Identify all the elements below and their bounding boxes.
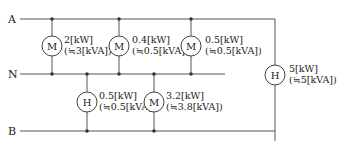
svg-text:H: H bbox=[271, 70, 280, 81]
load-motor-1: M 2[kW] (≒3[kVA]) bbox=[42, 34, 112, 56]
load-motor-4: M 3.2[kW] (≒3.8[kVA]) bbox=[144, 90, 223, 112]
svg-text:(≒3[kVA]): (≒3[kVA]) bbox=[64, 45, 112, 56]
svg-text:M: M bbox=[149, 97, 159, 108]
svg-text:(≒3.8[kVA]): (≒3.8[kVA]) bbox=[166, 101, 223, 112]
svg-text:2[kW]: 2[kW] bbox=[64, 34, 93, 45]
svg-text:H: H bbox=[83, 97, 92, 108]
svg-text:M: M bbox=[47, 41, 57, 52]
svg-text:5[kW]: 5[kW] bbox=[289, 63, 318, 74]
load-heater-2: H 5[kW] (≒5[kVA]) bbox=[265, 63, 337, 85]
svg-text:0.5[kW]: 0.5[kW] bbox=[205, 34, 243, 45]
single-phase-three-wire-diagram: A N B M 2[kW] (≒3[kVA]) M 0.4[kW] (≒0.5[… bbox=[0, 0, 337, 151]
load-motor-2: M 0.4[kW] (≒0.5[kVA]) bbox=[109, 34, 189, 56]
svg-text:(≒0.5[kVA]): (≒0.5[kVA]) bbox=[205, 45, 262, 56]
bus-a-label: A bbox=[7, 13, 17, 26]
svg-text:3.2[kW]: 3.2[kW] bbox=[166, 90, 204, 101]
svg-text:(≒0.5[kVA]): (≒0.5[kVA]) bbox=[132, 45, 189, 56]
svg-text:M: M bbox=[186, 41, 196, 52]
svg-text:(≒5[kVA]): (≒5[kVA]) bbox=[289, 74, 337, 85]
load-motor-3: M 0.5[kW] (≒0.5[kVA]) bbox=[181, 34, 262, 56]
svg-text:0.5[kW]: 0.5[kW] bbox=[99, 90, 137, 101]
svg-text:M: M bbox=[114, 41, 124, 52]
bus-b-label: B bbox=[8, 125, 16, 138]
bus-n-label: N bbox=[8, 68, 18, 81]
svg-text:0.4[kW]: 0.4[kW] bbox=[132, 34, 170, 45]
